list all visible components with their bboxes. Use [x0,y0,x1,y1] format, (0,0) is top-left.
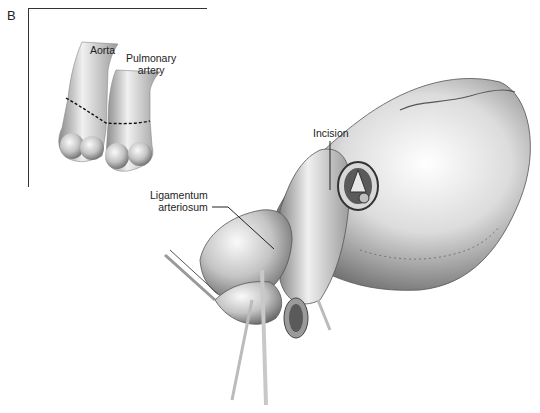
label-incision: Incision [313,127,349,139]
label-ligamentum-arteriosum: Ligamentum arteriosum [150,189,208,213]
label-ligamentum-line1: Ligamentum [150,189,208,201]
label-pulmonary-artery: Pulmonary artery [126,52,176,76]
label-ligamentum-line2: arteriosum [150,201,208,213]
label-pulmonary-line1: Pulmonary [126,52,176,64]
label-aorta: Aorta [90,44,115,56]
inset-pulmonary-artery [105,70,160,171]
aortic-valve [338,162,378,210]
label-pulmonary-line2: artery [126,64,176,76]
surgical-illustration [0,0,540,413]
